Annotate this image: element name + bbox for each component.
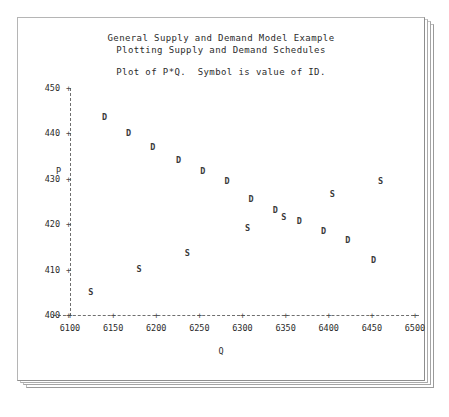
data-point-d: D — [199, 167, 206, 176]
x-tick-mark: + — [283, 310, 288, 320]
x-tick-label: 6400 — [312, 323, 346, 333]
x-tick-mark: + — [68, 310, 73, 320]
y-tick-mark: + — [66, 83, 71, 93]
plot-paper: General Supply and Demand Model Example … — [17, 17, 425, 381]
x-tick-label: 6300 — [226, 323, 260, 333]
x-tick-mark: + — [197, 310, 202, 320]
data-point-d: D — [149, 143, 156, 152]
x-tick-mark: + — [240, 310, 245, 320]
y-tick-label: 450 — [34, 83, 60, 93]
data-point-s: S — [377, 177, 384, 186]
x-tick-label: 6100 — [53, 323, 87, 333]
x-tick-mark: + — [326, 310, 331, 320]
data-point-s: S — [87, 288, 94, 297]
x-tick-label: 6250 — [182, 323, 216, 333]
x-tick-label: 6450 — [355, 323, 389, 333]
data-point-d: D — [125, 129, 132, 138]
y-tick-label: 420 — [34, 219, 60, 229]
y-tick-mark: + — [66, 174, 71, 184]
y-tick-label: 410 — [34, 265, 60, 275]
x-tick-label: 6500 — [398, 323, 432, 333]
data-point-s: S — [136, 265, 143, 274]
data-point-s: S — [184, 249, 191, 258]
y-tick-mark: + — [66, 265, 71, 275]
y-tick-mark: + — [66, 128, 71, 138]
y-tick-label: 430 — [34, 174, 60, 184]
data-point-d: D — [248, 195, 255, 204]
data-point-d: D — [101, 113, 108, 122]
x-tick-mark: + — [369, 310, 374, 320]
x-tick-label: 6200 — [139, 323, 173, 333]
plot-area: P Q 450+440+430+420+410+400++6100+6150+6… — [18, 18, 424, 380]
x-tick-label: 6150 — [96, 323, 130, 333]
data-point-d: D — [223, 177, 230, 186]
x-tick-mark: + — [413, 310, 418, 320]
x-tick-mark: + — [111, 310, 116, 320]
y-tick-mark: + — [66, 219, 71, 229]
x-axis-title: Q — [18, 346, 424, 356]
chart-screenshot: General Supply and Demand Model Example … — [0, 0, 449, 417]
data-point-s: S — [329, 190, 336, 199]
y-axis-line — [70, 88, 71, 316]
data-point-d: D — [370, 256, 377, 265]
data-point-d: D — [296, 217, 303, 226]
data-point-s: S — [280, 213, 287, 222]
data-point-d: D — [175, 156, 182, 165]
x-tick-mark: + — [154, 310, 159, 320]
data-point-d: D — [272, 206, 279, 215]
data-point-s: S — [244, 224, 251, 233]
y-tick-label: 440 — [34, 128, 60, 138]
x-tick-label: 6350 — [269, 323, 303, 333]
x-axis-line — [53, 315, 419, 316]
y-tick-label: 400 — [34, 310, 60, 320]
data-point-d: D — [320, 227, 327, 236]
data-point-d: D — [344, 236, 351, 245]
